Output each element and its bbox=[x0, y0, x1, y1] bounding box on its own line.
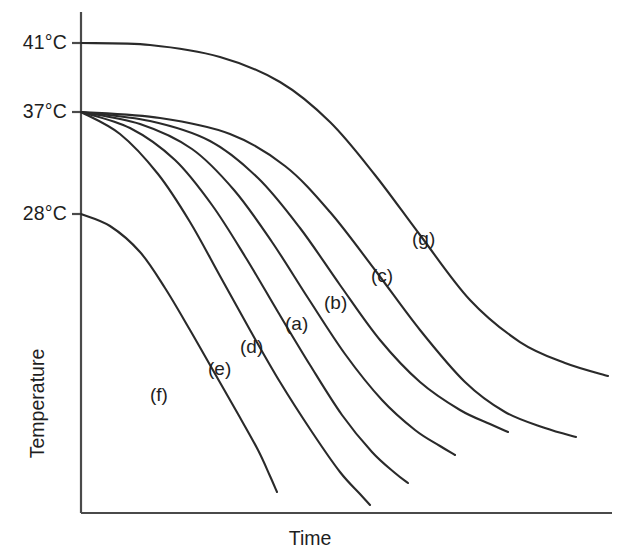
x-axis-title: Time bbox=[0, 527, 620, 550]
temperature-vs-time-chart: 41°C37°C28°C (f)(e)(d)(a)(b)(c)(g) Time … bbox=[0, 0, 620, 559]
curve-label-d: (d) bbox=[240, 336, 263, 358]
y-tick-label-1: 37°C bbox=[23, 100, 67, 123]
axis-lines bbox=[81, 12, 612, 513]
curve-label-g: (g) bbox=[412, 228, 435, 250]
curve-label-f: (f) bbox=[150, 384, 168, 406]
curve-a bbox=[81, 112, 455, 455]
curve-label-c: (c) bbox=[371, 265, 393, 287]
curve-label-a: (a) bbox=[285, 313, 308, 335]
y-axis-title: Temperature bbox=[26, 339, 49, 469]
y-tick-label-0: 41°C bbox=[23, 31, 67, 54]
curve-label-b: (b) bbox=[324, 292, 347, 314]
y-axis-tick-marks bbox=[72, 43, 81, 214]
chart-canvas bbox=[0, 0, 620, 559]
y-tick-label-2: 28°C bbox=[23, 202, 67, 225]
curve-label-e: (e) bbox=[208, 358, 231, 380]
curve-g bbox=[81, 43, 608, 376]
data-curves bbox=[81, 43, 608, 505]
